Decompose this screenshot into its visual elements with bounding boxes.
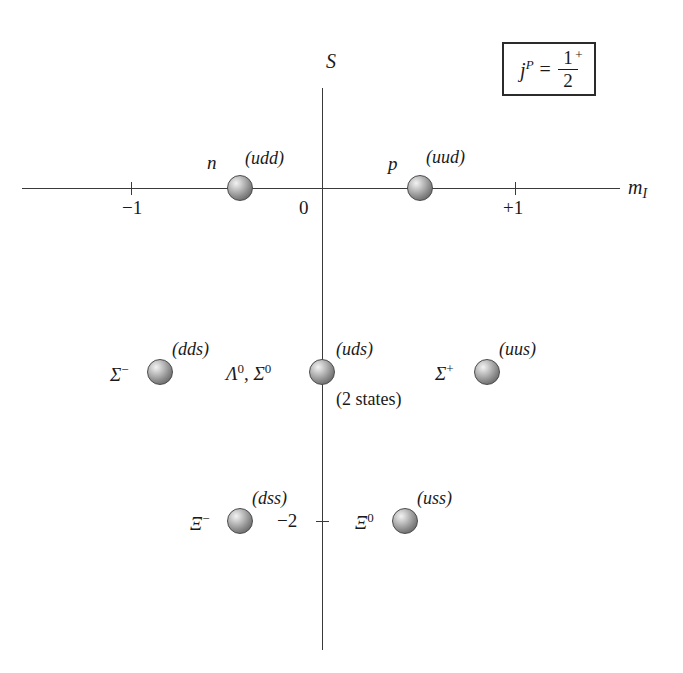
jp-symbol: jP [520, 58, 534, 80]
particle-label-sigma-plus: Σ+ [435, 362, 454, 383]
quark-content-sigma-plus: (uus) [499, 340, 536, 358]
quantum-number-box: jP = 1+ 2 [502, 42, 596, 96]
jp-denominator: 2 [563, 70, 573, 90]
particle-sphere-icon [227, 175, 253, 201]
particle-sphere-icon [147, 359, 173, 385]
particle-sphere-icon [309, 359, 335, 385]
y-tick-mark-minus-2 [316, 521, 329, 522]
baryon-octet-diagram: mI S −1 +1 0 −2 jP = 1+ 2 n (udd) p (uud… [0, 0, 683, 673]
particle-sphere-icon [227, 508, 253, 534]
jp-fraction: 1+ 2 [558, 48, 578, 90]
particle-label-lambda-sigma-zero: Λ0, Σ0 [226, 362, 271, 383]
quark-content-proton: (uud) [426, 148, 465, 166]
jp-equals-sign: = [540, 59, 551, 79]
horizontal-axis-m-i [22, 188, 620, 189]
x-tick-mark-minus-1 [131, 182, 132, 195]
particle-label-xi-minus: Ξ− [190, 512, 210, 533]
x-tick-mark-plus-1 [515, 182, 516, 195]
quark-content-xi-zero: (uss) [417, 489, 452, 507]
particle-sphere-icon [407, 175, 433, 201]
particle-label-proton: p [388, 152, 398, 173]
quark-content-xi-minus: (dss) [252, 489, 287, 507]
x-axis-label: mI [628, 176, 647, 202]
states-note-lambda-sigma-zero: (2 states) [336, 390, 401, 408]
y-axis-label: S [326, 50, 336, 73]
y-tick-label-minus-2: −2 [277, 510, 297, 532]
origin-label: 0 [299, 197, 309, 219]
particle-sphere-icon [474, 359, 500, 385]
quark-content-sigma-minus: (dds) [172, 340, 209, 358]
particle-sphere-icon [392, 508, 418, 534]
x-tick-label-minus-1: −1 [122, 197, 142, 219]
x-tick-label-plus-1: +1 [503, 197, 523, 219]
particle-label-xi-zero: Ξ0 [355, 511, 374, 532]
particle-label-neutron: n [207, 151, 217, 172]
quark-content-lambda-sigma-zero: (uds) [336, 340, 373, 358]
jp-numerator: 1+ [561, 48, 575, 68]
quark-content-neutron: (udd) [245, 149, 284, 167]
particle-label-sigma-minus: Σ− [110, 363, 129, 384]
